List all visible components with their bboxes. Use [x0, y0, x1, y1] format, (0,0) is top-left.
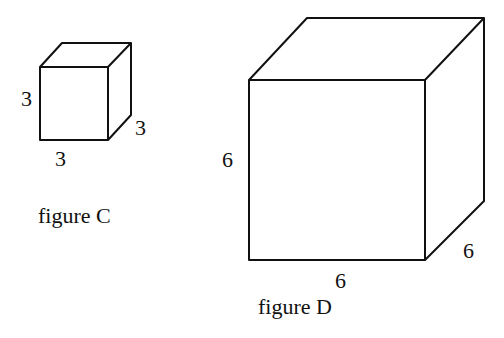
- cube-c-side-face: [108, 43, 131, 140]
- cube-d-height-label: 6: [222, 149, 233, 171]
- cube-c-width-label: 3: [55, 148, 66, 170]
- cube-d-width-label: 6: [335, 270, 346, 292]
- cube-d-side-face: [425, 18, 484, 260]
- cube-c-height-label: 3: [21, 88, 32, 110]
- cube-d: [249, 18, 484, 260]
- cube-c-depth-label: 3: [135, 117, 146, 139]
- cube-d-front-face: [249, 80, 425, 260]
- figure-d-caption: figure D: [258, 296, 332, 318]
- diagram-canvas: [0, 0, 504, 338]
- cube-d-depth-label: 6: [463, 240, 474, 262]
- cube-c-top-face: [40, 43, 131, 67]
- cube-c: [40, 43, 131, 140]
- figure-c-caption: figure C: [38, 205, 111, 227]
- cube-c-front-face: [40, 67, 108, 140]
- cube-d-top-face: [249, 18, 484, 80]
